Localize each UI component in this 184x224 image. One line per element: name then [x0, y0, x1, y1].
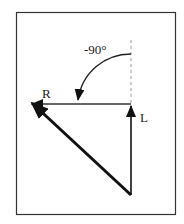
resultant-vector-arrow — [32, 103, 131, 195]
vector-diagram: -90° R L — [0, 0, 184, 224]
vector-r-label: R — [42, 86, 51, 101]
angle-label: -90° — [84, 42, 107, 57]
vector-l-label: L — [140, 110, 148, 125]
rotation-arc-arrow — [78, 54, 131, 100]
